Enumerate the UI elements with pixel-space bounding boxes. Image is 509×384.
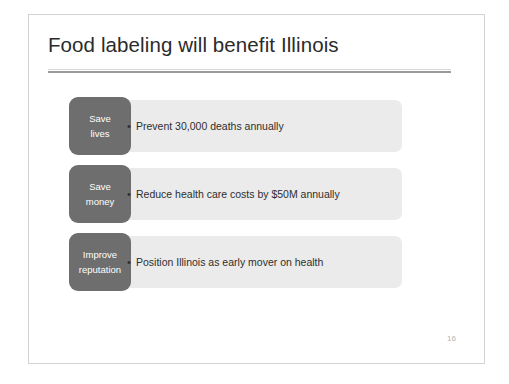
benefit-text: Prevent 30,000 deaths annually: [136, 120, 284, 132]
bullet-icon: •: [127, 189, 136, 200]
bullet-icon: •: [127, 121, 136, 132]
benefit-label-line-2: reputation: [79, 262, 121, 277]
benefit-label-line-1: Save: [89, 111, 111, 126]
benefit-label-improve-reputation: Improve reputation: [69, 233, 131, 291]
benefit-label-line-1: Improve: [83, 247, 117, 262]
benefit-label-save-lives: Save lives: [69, 97, 131, 155]
benefit-label-line-2: money: [86, 194, 115, 209]
list-item: Save money • Reduce health care costs by…: [69, 165, 402, 223]
benefit-list: Save lives • Prevent 30,000 deaths annua…: [29, 15, 484, 363]
list-item: Improve reputation • Position Illinois a…: [69, 233, 402, 291]
benefit-label-save-money: Save money: [69, 165, 131, 223]
benefit-bullet-row: • Position Illinois as early mover on he…: [127, 233, 323, 291]
benefit-bullet-row: • Prevent 30,000 deaths annually: [127, 97, 284, 155]
slide-frame: Food labeling will benefit Illinois Save…: [28, 14, 485, 364]
bullet-icon: •: [127, 257, 136, 268]
benefit-label-line-2: lives: [90, 126, 109, 141]
page-number: 16: [447, 334, 456, 343]
list-item: Save lives • Prevent 30,000 deaths annua…: [69, 97, 402, 155]
benefit-bullet-row: • Reduce health care costs by $50M annua…: [127, 165, 340, 223]
benefit-text: Position Illinois as early mover on heal…: [136, 256, 323, 268]
benefit-label-line-1: Save: [89, 179, 111, 194]
benefit-text: Reduce health care costs by $50M annuall…: [136, 188, 340, 200]
